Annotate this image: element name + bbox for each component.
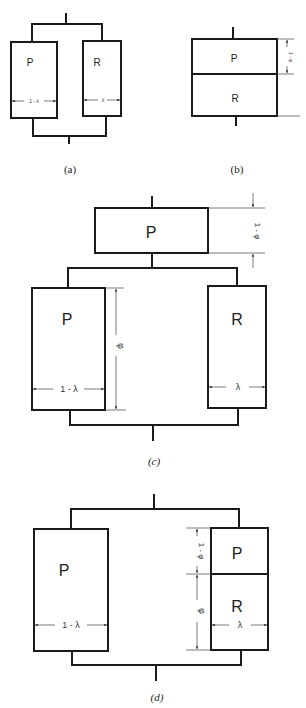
diagram-d: P P R 1 - λ λ 1 - φ φ (d) [34,494,268,704]
label-left-p: P [62,311,73,328]
label-r: R [231,93,238,104]
height-label-phi: φ [116,343,126,349]
label-right-p: P [232,545,243,562]
height-label-1-phi: 1 - φ [288,52,294,63]
width-label-1-lambda: 1 - λ [62,620,80,630]
label-p: P [231,53,238,64]
left-box-p [34,529,108,651]
width-label-lambda: λ [236,382,241,392]
height-label-1-phi: 1 - φ [197,543,206,560]
width-label-1-lambda: 1 - λ [29,98,39,104]
label-left-p: P [59,562,70,579]
top-connector [71,509,239,529]
reliability-diagrams: P R 1 - λ λ (a) P R 1 - φ (b) P P [0,0,306,708]
width-label-lambda: λ [238,620,243,630]
label-right-r: R [231,598,243,615]
height-label-phi: φ [197,608,207,614]
top-connector [32,24,102,42]
caption-a: (a) [64,163,77,176]
caption-d: (d) [151,691,164,704]
label-right-r: R [231,311,243,328]
caption-c: (c) [148,455,161,468]
label-r: R [93,57,100,68]
caption-b: (b) [231,163,244,176]
box-r [83,41,121,116]
diagram-a: P R 1 - λ λ (a) [11,13,121,176]
diagram-c: P P R 1 - φ φ 1 - λ λ (c) [32,193,266,468]
label-top-p: P [146,224,157,241]
label-p: P [27,57,34,68]
bottom-connector [72,650,241,665]
box-p [11,42,57,118]
width-label-1-lambda: 1 - λ [60,384,78,394]
diagram-b: P R 1 - φ (b) [192,27,300,176]
series-box [192,39,277,116]
height-label-1-phi: 1 - φ [253,223,262,240]
